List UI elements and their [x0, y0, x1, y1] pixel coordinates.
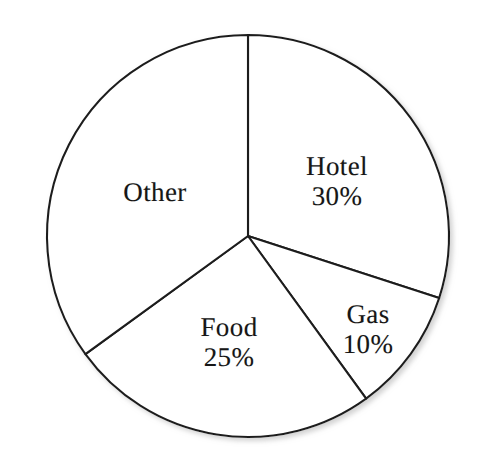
pie-label-food-name: Food [200, 312, 257, 342]
pie-slices-group [47, 35, 449, 437]
pie-label-gas-name: Gas [343, 299, 394, 329]
pie-label-other-name: Other [123, 177, 186, 207]
pie-label-gas-value: 10% [343, 329, 394, 359]
pie-label-gas: Gas 10% [343, 299, 394, 359]
pie-label-food-value: 25% [200, 342, 257, 372]
pie-label-hotel: Hotel 30% [306, 151, 368, 211]
pie-label-other: Other [123, 177, 186, 207]
pie-chart-svg [0, 0, 483, 474]
pie-label-hotel-value: 30% [306, 181, 368, 211]
pie-label-food: Food 25% [200, 312, 257, 372]
pie-chart-figure: Hotel 30% Gas 10% Food 25% Other [0, 0, 483, 474]
pie-label-hotel-name: Hotel [306, 151, 368, 181]
